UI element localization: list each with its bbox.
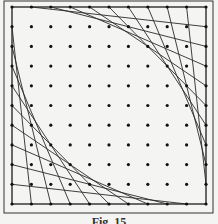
grid-dot — [49, 25, 52, 28]
grid-dot — [49, 45, 52, 48]
grid-dot — [69, 183, 72, 186]
grid-dot — [88, 25, 91, 28]
grid-dot — [88, 143, 91, 146]
grid-dot — [185, 143, 188, 146]
grid-dot — [49, 5, 52, 8]
grid-dot — [204, 65, 207, 68]
grid-dot — [30, 124, 33, 127]
grid-dot — [30, 65, 33, 68]
grid-dot — [185, 183, 188, 186]
grid-dot — [10, 163, 13, 166]
grid-dot — [146, 65, 149, 68]
envelope-line-bottom-left — [12, 145, 148, 204]
grid-dot — [204, 45, 207, 48]
grid-dot — [166, 163, 169, 166]
grid-dot — [10, 25, 13, 28]
grid-dot — [127, 163, 130, 166]
grid-dot — [166, 143, 169, 146]
grid-dot — [107, 84, 110, 87]
grid-dot — [146, 84, 149, 87]
grid-dot — [88, 5, 91, 8]
grid-dot — [10, 202, 13, 205]
grid-dot — [204, 5, 207, 8]
grid-dot — [166, 183, 169, 186]
grid-dot — [166, 5, 169, 8]
grid-dot — [69, 65, 72, 68]
grid-dot — [10, 5, 13, 8]
grid-dot — [185, 124, 188, 127]
grid-dot — [30, 45, 33, 48]
grid-dot — [107, 25, 110, 28]
grid-dot — [69, 124, 72, 127]
grid-dot — [49, 183, 52, 186]
grid-dot — [88, 124, 91, 127]
grid-dot — [107, 45, 110, 48]
grid-dot — [10, 65, 13, 68]
grid-dot — [127, 143, 130, 146]
grid-dot — [69, 202, 72, 205]
grid-dot — [204, 84, 207, 87]
grid-dot — [146, 5, 149, 8]
grid-dot — [146, 25, 149, 28]
grid-dot — [107, 202, 110, 205]
grid-dot — [30, 183, 33, 186]
grid-dot — [146, 104, 149, 107]
grid-dot — [10, 84, 13, 87]
grid-dot — [107, 163, 110, 166]
grid-dot — [146, 163, 149, 166]
grid-dot — [146, 45, 149, 48]
grid-dot — [127, 25, 130, 28]
grid-dot — [30, 104, 33, 107]
grid-dot — [49, 124, 52, 127]
envelope-line-top-right — [187, 7, 206, 184]
grid-dot — [185, 104, 188, 107]
grid-dot — [49, 202, 52, 205]
grid-dot — [30, 143, 33, 146]
grid-dot — [166, 84, 169, 87]
grid-dot — [204, 104, 207, 107]
grid-dot — [88, 45, 91, 48]
grid-dot — [127, 202, 130, 205]
envelope-line-bottom-left — [12, 106, 109, 205]
grid-dot — [49, 65, 52, 68]
grid-dot — [69, 163, 72, 166]
grid-dot — [107, 65, 110, 68]
grid-dot — [127, 183, 130, 186]
grid-dot — [185, 25, 188, 28]
grid-dot — [30, 202, 33, 205]
grid-dot — [88, 183, 91, 186]
figure-caption: Fig. 15 — [0, 215, 218, 224]
grid-dot — [69, 25, 72, 28]
grid-dot — [166, 25, 169, 28]
grid-dot — [146, 183, 149, 186]
grid-dot — [49, 104, 52, 107]
grid-dot — [10, 45, 13, 48]
envelope-line-top-right — [148, 7, 206, 145]
grid-dot — [204, 202, 207, 205]
grid-dot — [30, 84, 33, 87]
grid-dot — [204, 163, 207, 166]
grid-dot — [185, 84, 188, 87]
grid-dot — [107, 183, 110, 186]
grid-dot — [185, 163, 188, 166]
grid-dot — [10, 183, 13, 186]
grid-dot — [88, 163, 91, 166]
grid-dot — [69, 143, 72, 146]
grid-dot — [69, 104, 72, 107]
grid-dot — [127, 124, 130, 127]
grid-dot — [166, 45, 169, 48]
envelope-line-bottom-left — [12, 184, 187, 204]
grid-dot — [204, 124, 207, 127]
grid-dot — [69, 84, 72, 87]
grid-dot — [88, 202, 91, 205]
dot-grid — [10, 5, 207, 205]
grid-dot — [146, 202, 149, 205]
grid-dot — [49, 84, 52, 87]
grid-dot — [49, 143, 52, 146]
grid-dot — [166, 124, 169, 127]
grid-dot — [204, 25, 207, 28]
grid-dot — [166, 202, 169, 205]
grid-dot — [30, 25, 33, 28]
grid-dot — [107, 143, 110, 146]
grid-dot — [107, 104, 110, 107]
